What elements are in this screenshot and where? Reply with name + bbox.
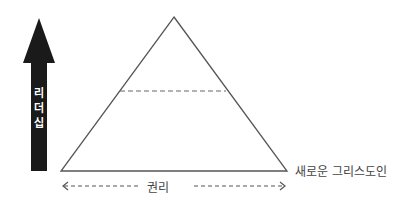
rights-label: 권리 (147, 178, 169, 195)
leadership-label: 리더십 (31, 86, 47, 131)
pyramid-triangle (61, 17, 287, 171)
new-christian-label: 새로운 그리스도인 (295, 162, 387, 179)
rights-arrow (63, 182, 285, 190)
